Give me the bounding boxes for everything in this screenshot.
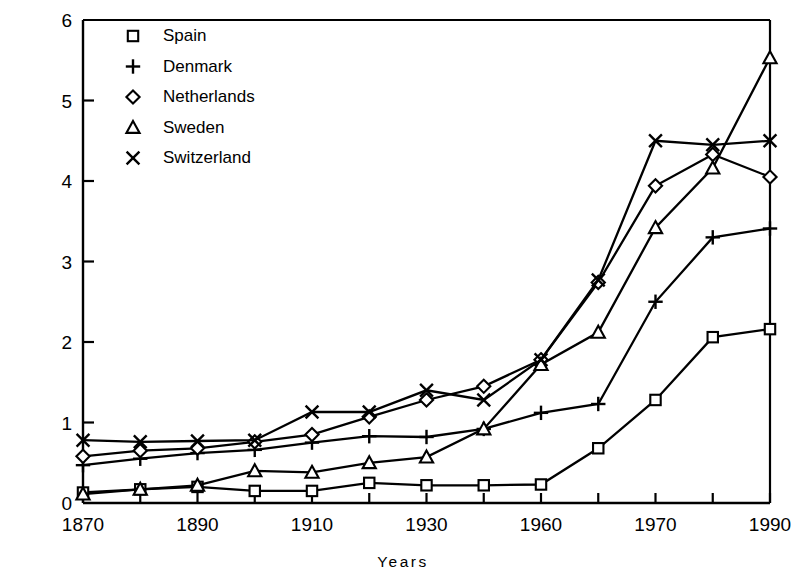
marker-square — [650, 395, 660, 405]
marker-triangle — [763, 51, 776, 63]
marker-triangle — [706, 162, 719, 174]
x-tick-label: 1970 — [634, 514, 676, 535]
marker-square — [128, 31, 138, 41]
marker-square — [765, 324, 775, 334]
series-denmark — [76, 221, 777, 472]
series-spain — [78, 324, 775, 498]
x-tick-label: 1930 — [405, 514, 447, 535]
marker-square — [708, 332, 718, 342]
legend-label: Spain — [163, 26, 206, 45]
legend-item-netherlands[interactable]: Netherlands — [126, 87, 254, 106]
marker-triangle — [592, 326, 605, 338]
legend-item-spain[interactable]: Spain — [128, 26, 207, 45]
marker-diamond — [477, 380, 490, 393]
legend-label: Sweden — [163, 118, 224, 137]
y-tick-label: 5 — [61, 91, 72, 112]
y-tick-label: 6 — [61, 10, 72, 31]
legend-label: Netherlands — [163, 87, 255, 106]
marker-triangle — [126, 121, 139, 133]
marker-diamond — [305, 428, 318, 441]
x-tick-label: 1990 — [749, 514, 791, 535]
marker-square — [593, 443, 603, 453]
marker-square — [307, 486, 317, 496]
legend-label: Denmark — [163, 57, 232, 76]
chart-figure: 01234561870189019101930196019701990Spain… — [0, 0, 806, 587]
marker-square — [536, 479, 546, 489]
chart-canvas: 01234561870189019101930196019701990Spain… — [0, 0, 806, 587]
y-axis-ticks: 0123456 — [61, 10, 94, 514]
series-netherlands — [76, 148, 776, 463]
x-tick-label: 1870 — [62, 514, 104, 535]
x-axis-label: Years — [0, 553, 806, 571]
x-tick-label: 1910 — [291, 514, 333, 535]
marker-diamond — [763, 170, 776, 183]
legend: SpainDenmarkNetherlandsSwedenSwitzerland — [126, 26, 255, 167]
x-axis-ticks: 1870189019101930196019701990 — [62, 493, 791, 535]
marker-diamond — [76, 450, 89, 463]
legend-item-denmark[interactable]: Denmark — [126, 57, 233, 76]
marker-square — [364, 478, 374, 488]
series-line — [83, 229, 770, 466]
series-line — [83, 329, 770, 492]
legend-label: Switzerland — [163, 148, 251, 167]
legend-item-sweden[interactable]: Sweden — [126, 118, 224, 137]
marker-diamond — [649, 179, 662, 192]
marker-square — [421, 480, 431, 490]
y-tick-label: 0 — [61, 493, 72, 514]
y-tick-label: 4 — [61, 171, 72, 192]
marker-square — [250, 486, 260, 496]
marker-square — [479, 480, 489, 490]
y-tick-label: 1 — [61, 413, 72, 434]
y-tick-label: 2 — [61, 332, 72, 353]
legend-item-switzerland[interactable]: Switzerland — [127, 148, 251, 167]
series-line — [83, 154, 770, 456]
x-tick-label: 1890 — [176, 514, 218, 535]
x-tick-label: 1960 — [520, 514, 562, 535]
y-tick-label: 3 — [61, 252, 72, 273]
marker-diamond — [126, 90, 139, 103]
